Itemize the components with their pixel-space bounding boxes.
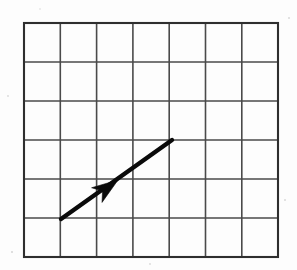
paper-speck <box>288 17 290 19</box>
vector-diagram <box>0 0 297 270</box>
paper-speck <box>284 199 286 201</box>
paper-speck <box>11 251 13 253</box>
figure-background <box>0 0 297 270</box>
figure-canvas <box>0 0 297 270</box>
paper-speck <box>149 263 151 265</box>
paper-speck <box>7 95 9 97</box>
paper-speck <box>39 8 41 10</box>
